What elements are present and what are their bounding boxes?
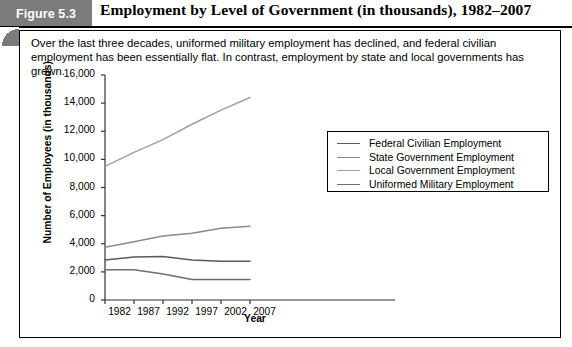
legend-line-swatch	[337, 170, 360, 171]
legend-line-swatch	[337, 143, 360, 144]
y-axis-tick-label: 10,000	[49, 152, 95, 163]
y-axis-tick-label: 12,000	[49, 124, 95, 135]
figure-number-tab: Figure 5.3	[0, 0, 92, 27]
series-line	[105, 226, 250, 247]
chart-legend: Federal Civilian EmploymentState Governm…	[327, 131, 549, 192]
chart-plot-area: Number of Employees (in thousands) Year …	[19, 30, 561, 338]
legend-line-swatch	[337, 184, 360, 185]
y-axis-tick-label: 16,000	[49, 68, 95, 79]
x-axis-tick-label: 2007	[240, 306, 290, 317]
legend-item: Local Government Employment	[328, 164, 548, 178]
legend-item-label: State Government Employment	[369, 152, 514, 163]
figure-header: Figure 5.3 Employment by Level of Govern…	[0, 0, 572, 27]
legend-line-swatch	[337, 157, 360, 158]
legend-item: Federal Civilian Employment	[328, 137, 548, 151]
figure-title: Employment by Level of Government (in th…	[100, 1, 531, 19]
legend-item: State Government Employment	[328, 151, 548, 165]
y-axis-tick-label: 2,000	[49, 265, 95, 276]
legend-item-label: Uniformed Military Employment	[369, 179, 513, 190]
legend-item-label: Federal Civilian Employment	[369, 138, 501, 149]
figure-number-label: Figure 5.3	[16, 7, 76, 21]
y-axis-tick-label: 14,000	[49, 96, 95, 107]
legend-item-label: Local Government Employment	[369, 165, 515, 176]
series-line	[105, 256, 250, 261]
y-axis-tick-label: 4,000	[49, 237, 95, 248]
series-line	[105, 270, 250, 280]
y-axis-tick-label: 6,000	[49, 209, 95, 220]
y-axis-tick-label: 8,000	[49, 181, 95, 192]
figure-tab-spine	[0, 27, 19, 46]
legend-item: Uniformed Military Employment	[328, 178, 548, 192]
header-divider	[0, 26, 572, 28]
y-axis-tick-label: 0	[49, 293, 95, 304]
series-line	[105, 98, 250, 167]
chart-series-lines	[105, 98, 250, 280]
